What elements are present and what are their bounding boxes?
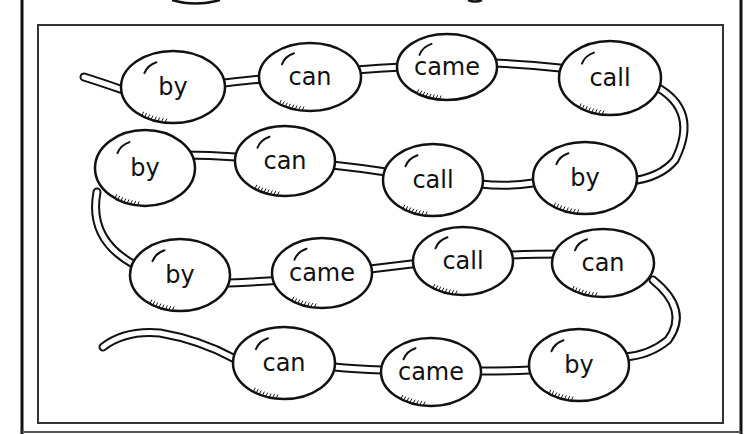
bead-can: can [552, 229, 654, 297]
bead-call: call [413, 227, 513, 295]
bead-by: by [529, 329, 629, 401]
bead-can: can [235, 126, 335, 196]
bead-word: came [398, 358, 464, 386]
bead-word: can [288, 63, 331, 91]
bead-word: call [589, 64, 630, 92]
bead-call: call [559, 41, 661, 115]
bead-word: by [570, 164, 599, 192]
bead-word: can [581, 249, 624, 277]
bead-by: by [121, 51, 225, 123]
bead-can: can [233, 327, 335, 399]
bead-word: by [564, 351, 593, 379]
bead-word: call [412, 166, 453, 194]
bead-word: can [262, 349, 305, 377]
bead-call: call [383, 144, 483, 216]
bead-word: by [158, 73, 187, 101]
bead-word: came [289, 259, 355, 287]
bead-word: came [414, 53, 480, 81]
bead-word: by [130, 154, 159, 182]
bead-word: call [442, 247, 483, 275]
partial-top-beads [172, 0, 482, 4]
bead-came: came [397, 34, 497, 100]
bead-by: by [533, 142, 637, 214]
bead-word: by [165, 261, 194, 289]
bead-word: can [263, 147, 306, 175]
bead-came: came [272, 238, 372, 308]
bead-can: can [259, 43, 361, 111]
bead-by: by [130, 239, 230, 311]
bead-by: by [95, 130, 195, 206]
bead-came: came [381, 338, 481, 406]
bead-string-worksheet: bycancamecallbycallcanbybycamecallcanbyc… [0, 0, 753, 434]
